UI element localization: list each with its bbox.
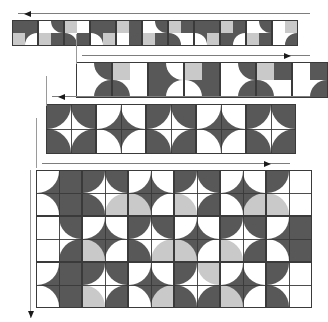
pattern-cell: [36, 262, 82, 308]
quadrant-tr-dark-square: [103, 21, 115, 33]
quadrant-tr-dark-round: [197, 171, 219, 193]
seam-vertical: [59, 171, 60, 215]
quadrant-bl-dark-round: [113, 80, 130, 97]
quadrant-tr-dark-round: [238, 63, 255, 80]
quadrant-bl-mid-round: [129, 193, 151, 215]
seam-vertical: [151, 217, 152, 261]
level-4-scale-arrow-right: [264, 161, 271, 167]
level-3-tiling: [46, 104, 296, 154]
pattern-cell: [184, 62, 220, 98]
quadrant-bl-light-round: [221, 193, 243, 215]
level-1-scale-rule: [18, 13, 310, 14]
quadrant-tr-dark-square: [289, 217, 311, 239]
seam-vertical: [289, 171, 290, 215]
pattern-cell: [128, 262, 174, 308]
quadrant-bl-light-square: [117, 33, 129, 45]
seam-vertical: [171, 105, 172, 153]
connector-level1-to-level2: [76, 34, 77, 64]
pattern-cell: [194, 20, 220, 46]
pattern-cell: [128, 216, 174, 262]
quadrant-tl-dark-square: [91, 21, 103, 33]
quadrant-tl-mid-square: [169, 21, 181, 33]
quadrant-tr-dark-round: [71, 105, 95, 129]
quadrant-br-dark-square: [59, 193, 81, 215]
quadrant-br-dark-square: [77, 33, 89, 45]
quadrant-tl-dark-square: [13, 21, 25, 33]
quadrant-br-dark-square: [51, 33, 63, 45]
quadrant-bl-light-round: [97, 129, 121, 153]
quadrant-tr-dark-round: [271, 105, 295, 129]
seam-vertical: [243, 171, 244, 215]
quadrant-tl-light-square: [293, 63, 310, 80]
quadrant-bl-light-square: [293, 80, 310, 97]
quadrant-tr-dark-square: [274, 63, 291, 80]
quadrant-tl-light-square: [77, 63, 94, 80]
level-1-scale-arrow-left: [24, 11, 31, 17]
level-1-grid: [12, 20, 298, 46]
quadrant-tr-dark-square: [207, 21, 219, 33]
level-3-scale-rule: [52, 96, 310, 97]
quadrant-bl-dark-square: [149, 80, 166, 97]
quadrant-tr-dark-round: [243, 217, 265, 239]
pattern-cell: [266, 216, 312, 262]
quadrant-tr-dark-round: [94, 63, 111, 80]
quadrant-bl-light-square: [37, 239, 59, 261]
quadrant-br-light-square: [130, 80, 147, 97]
quadrant-br-light-round: [233, 33, 245, 45]
quadrant-bl-light-square: [273, 33, 285, 45]
pattern-cell: [196, 104, 246, 154]
quadrant-br-light-round: [121, 129, 145, 153]
level-1-tiling: [12, 20, 298, 46]
quadrant-tl-dark-round: [267, 263, 289, 285]
pattern-cell: [82, 216, 128, 262]
vertical-scale-axis: [30, 170, 31, 318]
quadrant-br-dark-round: [285, 33, 297, 45]
quadrant-tl-light-round: [129, 171, 151, 193]
seam-vertical: [151, 263, 152, 307]
connector-level3-to-level4: [36, 118, 37, 168]
quadrant-bl-mid-round: [175, 193, 197, 215]
quadrant-tr-dark-round: [151, 217, 173, 239]
level-2-scale-rule: [82, 55, 310, 56]
quadrant-tr-dark-round: [171, 105, 195, 129]
pattern-cell: [46, 104, 96, 154]
pattern-cell: [174, 262, 220, 308]
quadrant-tl-dark-round: [247, 105, 271, 129]
quadrant-bl-dark-round: [175, 285, 197, 307]
quadrant-tr-light-round: [243, 171, 265, 193]
quadrant-br-dark-square: [259, 33, 271, 45]
quadrant-br-light-round: [151, 193, 173, 215]
pattern-cell: [116, 20, 142, 46]
pattern-cell: [64, 20, 90, 46]
quadrant-tl-light-square: [247, 21, 259, 33]
quadrant-tr-light-square: [130, 63, 147, 80]
quadrant-tl-dark-round: [83, 263, 105, 285]
pattern-cell: [142, 20, 168, 46]
quadrant-bl-light-round: [195, 33, 207, 45]
quadrant-tl-dark-round: [47, 105, 71, 129]
quadrant-bl-dark-round: [83, 193, 105, 215]
quadrant-bl-light-round: [129, 285, 151, 307]
quadrant-tr-dark-round: [105, 171, 127, 193]
seam-vertical: [221, 105, 222, 153]
seam-vertical: [197, 263, 198, 307]
pattern-cell: [112, 62, 148, 98]
quadrant-tl-mid-square: [221, 21, 233, 33]
pattern-cell: [220, 170, 266, 216]
quadrant-br-dark-round: [243, 239, 265, 261]
pattern-cell: [246, 104, 296, 154]
pattern-cell: [174, 170, 220, 216]
quadrant-tl-dark-round: [175, 171, 197, 193]
quadrant-tl-light-round: [97, 105, 121, 129]
quadrant-bl-mid-square: [143, 33, 155, 45]
quadrant-tr-light-round: [105, 217, 127, 239]
quadrant-br-dark-round: [310, 80, 327, 97]
quadrant-br-dark-round: [94, 80, 111, 97]
pattern-cell: [220, 62, 256, 98]
pattern-cell: [90, 20, 116, 46]
pattern-cell: [246, 20, 272, 46]
quadrant-br-light-square: [181, 33, 193, 45]
seam-vertical: [271, 105, 272, 153]
pattern-cell: [96, 104, 146, 154]
connector-level2-to-level3: [46, 76, 47, 106]
